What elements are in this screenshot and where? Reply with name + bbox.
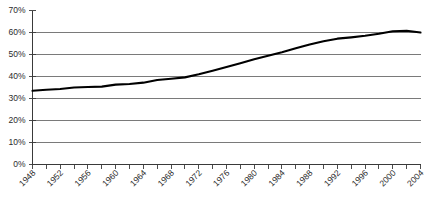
y-tick-label-60: 60% bbox=[8, 27, 25, 37]
y-tick-label-50: 50% bbox=[8, 49, 25, 59]
line-chart: 70%60%50%40%30%20%10%0% 1948195219561960… bbox=[0, 0, 431, 208]
y-tick-label-40: 40% bbox=[8, 71, 25, 81]
chart-canvas: 70%60%50%40%30%20%10%0% 1948195219561960… bbox=[0, 0, 431, 208]
y-tick-label-70: 70% bbox=[8, 5, 25, 15]
y-tick-label-20: 20% bbox=[8, 115, 25, 125]
y-tick-label-0: 0% bbox=[13, 159, 26, 169]
y-tick-label-30: 30% bbox=[8, 93, 25, 103]
y-tick-label-10: 10% bbox=[8, 137, 25, 147]
